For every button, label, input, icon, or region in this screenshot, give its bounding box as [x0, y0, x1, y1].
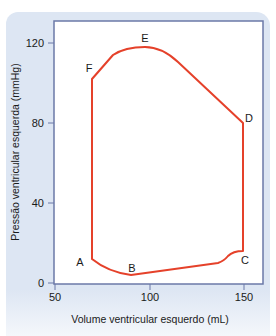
point-label-c: C: [241, 254, 249, 266]
y-tick-label-120: 120: [26, 37, 44, 49]
y-tick-label-40: 40: [32, 197, 44, 209]
point-label-b: B: [128, 262, 135, 274]
plot-area: [54, 21, 263, 284]
x-axis: [55, 284, 244, 290]
point-label-e: E: [141, 32, 148, 44]
x-tick-label-50: 50: [49, 291, 61, 303]
y-axis-title: Pressão ventricular esquerda (mmHg): [9, 63, 21, 240]
y-axis: [48, 43, 54, 283]
pv-loop-chart: 0 40 80 120 50 100 150 Volume ventricula…: [0, 0, 276, 336]
point-label-f: F: [86, 62, 93, 74]
y-tick-label-0: 0: [38, 277, 44, 289]
point-label-a: A: [76, 256, 84, 268]
x-axis-title: Volume ventricular esquerdo (mL): [71, 313, 229, 325]
x-tick-label-100: 100: [141, 291, 159, 303]
point-label-d: D: [245, 112, 253, 124]
y-tick-label-80: 80: [32, 117, 44, 129]
x-tick-label-150: 150: [235, 291, 253, 303]
